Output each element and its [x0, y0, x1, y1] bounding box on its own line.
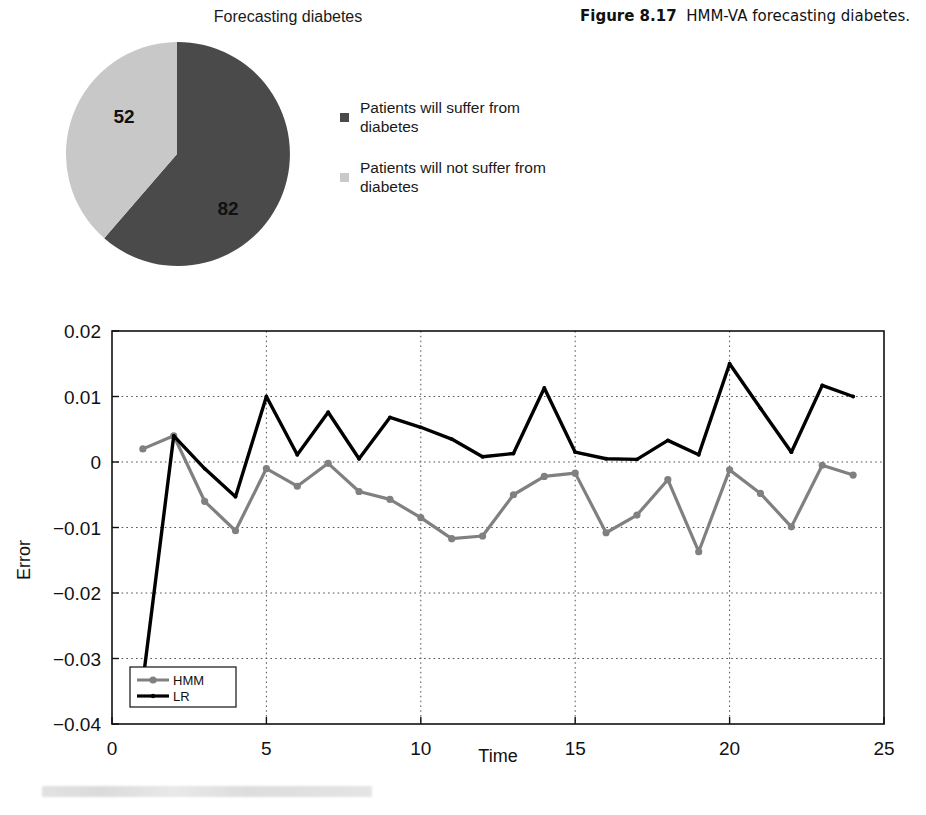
data-point: [265, 395, 269, 399]
legend-label-suffer: Patients will suffer from diabetes: [360, 98, 570, 136]
data-point: [633, 511, 640, 518]
data-point: [232, 527, 239, 534]
data-point: [450, 437, 454, 441]
data-point: [851, 395, 855, 399]
data-point: [357, 457, 361, 461]
legend-item-suffer[interactable]: Patients will suffer from diabetes: [340, 98, 570, 136]
chart-legend[interactable]: HMMLR: [130, 667, 236, 707]
page-scan-artifact: [42, 786, 372, 797]
x-tick-label: 0: [107, 738, 118, 759]
data-point: [757, 490, 764, 497]
data-point: [819, 462, 826, 469]
data-point: [388, 416, 392, 420]
pie-slice-label-82: 82: [217, 198, 238, 219]
data-point: [788, 523, 795, 530]
data-point: [635, 457, 639, 461]
y-tick-label: 0: [90, 452, 101, 473]
x-tick-label: 15: [565, 738, 586, 759]
legend-entry-lr[interactable]: LR: [173, 689, 190, 704]
pie-chart-title: Forecasting diabetes: [138, 8, 438, 26]
y-tick-label: −0.01: [53, 518, 101, 539]
data-point: [448, 535, 455, 542]
data-point: [542, 386, 546, 390]
data-point: [512, 452, 516, 456]
data-point: [417, 514, 424, 521]
y-tick-label: −0.04: [53, 714, 102, 735]
data-point: [479, 532, 486, 539]
data-point: [294, 483, 301, 490]
data-point: [326, 410, 330, 414]
data-point: [726, 466, 733, 473]
data-point: [325, 460, 332, 467]
data-point: [203, 467, 207, 471]
data-point: [759, 406, 763, 410]
chart-x-axis-title: Time: [478, 746, 517, 766]
data-point: [697, 453, 701, 457]
y-tick-label: 0.01: [64, 387, 101, 408]
figure-caption: Figure 8.17 HMM-VA forecasting diabetes.: [580, 6, 920, 27]
y-tick-label: −0.03: [53, 649, 101, 670]
chart-y-axis-title: Error: [14, 540, 34, 580]
data-point: [602, 529, 609, 536]
data-point: [481, 455, 485, 459]
error-line-chart: 0.020.010−0.01−0.02−0.03−0.04 0510152025…: [0, 300, 926, 770]
legend-entry-hmm[interactable]: HMM: [173, 673, 204, 688]
data-point: [419, 425, 423, 429]
data-point: [234, 495, 238, 499]
pie-legend: Patients will suffer from diabetes Patie…: [340, 98, 570, 218]
data-point: [728, 362, 732, 366]
figure-number: Figure 8.17: [580, 7, 677, 25]
data-point: [820, 383, 824, 387]
x-tick-label: 25: [873, 738, 894, 759]
series-lr[interactable]: [141, 362, 855, 683]
data-point: [604, 457, 608, 461]
figure-caption-text: HMM-VA forecasting diabetes.: [686, 7, 910, 25]
data-point: [573, 450, 577, 454]
data-point: [172, 434, 176, 438]
data-point: [850, 472, 857, 479]
data-point: [664, 476, 671, 483]
y-tick-label: 0.02: [64, 321, 101, 342]
data-point: [386, 496, 393, 503]
data-point: [695, 548, 702, 555]
pie-chart-svg: 82 52: [62, 39, 292, 269]
x-tick-label: 20: [719, 738, 740, 759]
data-point: [295, 453, 299, 457]
data-point: [541, 473, 548, 480]
data-point: [355, 488, 362, 495]
data-point: [201, 498, 208, 505]
legend-swatch-dark: [340, 113, 349, 122]
data-point: [139, 445, 146, 452]
y-tick-label: −0.02: [53, 583, 101, 604]
legend-item-not-suffer[interactable]: Patients will not suffer from diabetes: [340, 158, 570, 196]
x-tick-label: 5: [261, 738, 272, 759]
legend-label-not-suffer: Patients will not suffer from diabetes: [360, 158, 570, 196]
chart-series-group: [139, 362, 856, 683]
pie-chart: 82 52: [62, 39, 292, 269]
data-point: [572, 470, 579, 477]
chart-gridlines: [112, 331, 884, 724]
legend-swatch-light: [340, 173, 349, 182]
chart-y-tick-labels: 0.020.010−0.01−0.02−0.03−0.04: [53, 321, 102, 735]
data-point: [789, 450, 793, 454]
series-hmm[interactable]: [139, 432, 856, 555]
data-point: [666, 438, 670, 442]
data-point: [510, 491, 517, 498]
error-line-chart-svg: 0.020.010−0.01−0.02−0.03−0.04 0510152025…: [0, 300, 926, 770]
x-tick-label: 10: [410, 738, 431, 759]
pie-slice-label-52: 52: [113, 106, 134, 127]
data-point: [263, 465, 270, 472]
